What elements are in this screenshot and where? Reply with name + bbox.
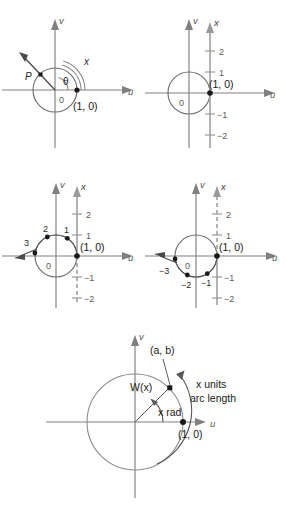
origin-label: 0 <box>46 261 51 271</box>
point-one-zero-marker <box>214 253 220 259</box>
tick-label-neg-1: −1 <box>217 110 227 120</box>
wrapped-point-neg-3-marker <box>173 257 178 262</box>
point-p-label: P <box>25 71 32 82</box>
panel-number-line-tangent: v u x 2 1 −1 −2 0 (1, 0) <box>143 0 287 148</box>
point-one-zero-label: (1, 0) <box>209 78 234 90</box>
wrapped-point-1-marker <box>65 236 70 241</box>
wrapped-label-1: 1 <box>64 225 69 235</box>
u-axis-label: u <box>272 252 278 263</box>
tick-label-2: 2 <box>226 210 231 220</box>
point-one-zero-label: (1, 0) <box>178 428 203 440</box>
wrapped-label-neg-1: −1 <box>201 278 211 288</box>
figure-sheet: v u P θ x 0 (1, 0) <box>0 0 287 506</box>
tick-label-neg-2: −2 <box>224 294 234 304</box>
origin-label: 0 <box>179 98 184 108</box>
v-axis <box>192 183 200 308</box>
v-axis-label: v <box>60 179 66 190</box>
point-one-zero-marker <box>74 253 80 259</box>
point-p-marker <box>39 73 43 77</box>
tick-label-neg-2: −2 <box>84 294 94 304</box>
arc-x-label: x <box>83 56 90 67</box>
arc-length-arc <box>157 375 192 464</box>
v-axis <box>51 19 59 148</box>
arc-length-line-2: arc length <box>190 392 236 404</box>
panel-angle-theta-and-arc-x: v u P θ x 0 (1, 0) <box>0 0 143 148</box>
tick-label-2: 2 <box>86 210 91 220</box>
point-one-zero-marker <box>180 419 186 425</box>
origin-label: 0 <box>185 261 190 271</box>
point-one-zero-marker <box>74 87 79 92</box>
point-one-zero-label: (1, 0) <box>219 241 244 253</box>
u-axis-label: u <box>210 418 216 429</box>
tick-label-1: 1 <box>219 68 224 78</box>
v-axis-label: v <box>200 179 206 190</box>
w-of-x-point-marker <box>167 385 172 390</box>
tick-label-1: 1 <box>226 231 231 241</box>
wrapped-point-neg-2-marker <box>185 273 190 278</box>
wrapped-label-neg-3: −3 <box>159 266 169 276</box>
wrapped-point-3-marker <box>33 251 38 256</box>
v-axis-label: v <box>139 331 145 342</box>
u-axis-label: u <box>128 252 134 263</box>
w-of-x-label: W(x) <box>130 381 152 393</box>
panel-wrapping-function: v u (a, b) W(x) x rad x units arc length <box>30 312 280 506</box>
tick-label-1: 1 <box>86 231 91 241</box>
x-rad-label: x rad <box>158 406 182 418</box>
tick-label-2: 2 <box>219 47 224 57</box>
wrapped-point-neg-1-marker <box>205 271 210 276</box>
tick-label-neg-1: −1 <box>224 273 234 283</box>
wrapped-label-3: 3 <box>24 238 29 248</box>
panel-positive-wrap: v u x 2 1 −1 −2 <box>0 150 143 308</box>
point-one-zero-label: (1, 0) <box>80 241 105 253</box>
tick-label-neg-1: −1 <box>84 273 94 283</box>
coords-leader-line <box>163 359 170 385</box>
v-axis-label: v <box>193 15 199 26</box>
v-axis <box>52 183 60 308</box>
v-axis <box>131 335 139 498</box>
u-axis-label: u <box>270 89 276 100</box>
wrapped-label-neg-2: −2 <box>181 280 191 290</box>
v-axis-label: v <box>59 15 65 26</box>
point-one-zero-label: (1, 0) <box>73 100 98 112</box>
origin-label: 0 <box>59 95 64 105</box>
wrapped-point-2-marker <box>45 235 50 240</box>
arc-length-arrowhead <box>176 371 185 381</box>
point-one-zero-marker <box>207 90 213 96</box>
theta-label: θ <box>63 76 69 87</box>
wrapped-label-2: 2 <box>43 224 48 234</box>
panel-negative-wrap: v u x 2 1 −1 −2 <box>143 150 287 308</box>
arc-length-line-1: x units <box>196 378 226 390</box>
tick-label-neg-2: −2 <box>217 131 227 141</box>
coords-label: (a, b) <box>150 344 175 356</box>
x-axis-label: x <box>220 181 227 192</box>
v-axis <box>185 19 193 148</box>
u-axis-label: u <box>128 86 134 97</box>
x-axis-label: x <box>213 17 220 28</box>
x-axis-label: x <box>80 181 87 192</box>
